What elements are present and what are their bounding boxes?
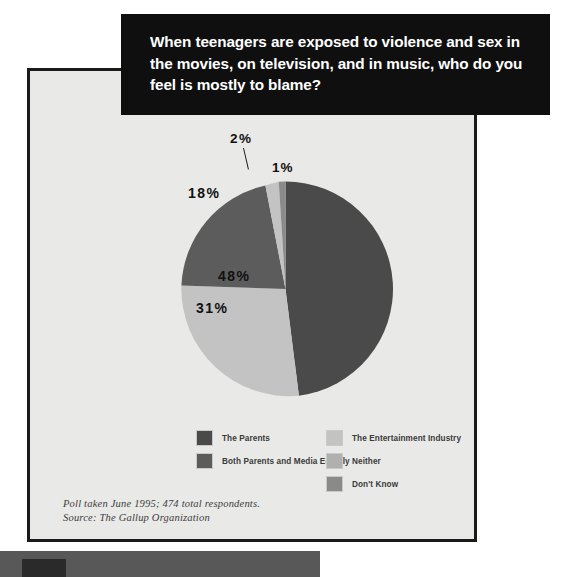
legend-column-right: The Entertainment Industry Neither Don't…: [326, 428, 461, 497]
chart-question-title: When teenagers are exposed to violence a…: [150, 31, 524, 96]
legend-swatch-the-parents: [196, 430, 213, 446]
legend-label-the-parents: The Parents: [222, 434, 270, 443]
legend-label-the-entertainment-industry: The Entertainment Industry: [352, 434, 461, 443]
legend-label-neither: Neither: [352, 457, 381, 466]
legend-swatch-neither: [326, 453, 343, 469]
title-banner: When teenagers are exposed to violence a…: [121, 14, 550, 115]
footnote-poll-line: Poll taken June 1995; 474 total responde…: [63, 497, 260, 511]
pie-label-2-percent: 2%: [230, 131, 253, 146]
legend-swatch-dont-know: [326, 476, 343, 492]
bottom-bar-swatch: [22, 559, 66, 577]
legend-label-dont-know: Don't Know: [352, 480, 398, 489]
legend-item-neither: Neither: [326, 451, 461, 471]
legend-swatch-the-entertainment-industry: [326, 430, 343, 446]
pie-slice-the-parents: [286, 182, 393, 396]
bottom-partial-bar: [0, 551, 320, 577]
legend-item-the-entertainment-industry: The Entertainment Industry: [326, 428, 461, 448]
legend-swatch-both-parents-and-media-equally: [196, 453, 213, 469]
pie-label-48-percent: 48%: [218, 268, 251, 284]
pie-label-18-percent: 18%: [188, 185, 221, 201]
pie-label-31-percent: 31%: [196, 300, 229, 316]
chart-legend: The Parents Both Parents and Media Equal…: [196, 428, 496, 490]
pie-label-1-percent: 1%: [272, 160, 294, 175]
legend-item-dont-know: Don't Know: [326, 474, 461, 494]
chart-footnote: Poll taken June 1995; 474 total responde…: [63, 497, 260, 524]
footnote-source-line: Source: The Gallup Organization: [63, 511, 260, 525]
